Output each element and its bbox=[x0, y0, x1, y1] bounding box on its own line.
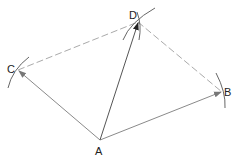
label-a: A bbox=[95, 145, 103, 157]
parallelogram-diagram: A B C D bbox=[0, 0, 238, 161]
dashed-line-c-d bbox=[18, 22, 138, 70]
vector-a-d bbox=[100, 23, 138, 140]
arc-d-1 bbox=[123, 8, 155, 40]
vector-a-c bbox=[19, 71, 100, 140]
label-c: C bbox=[7, 63, 15, 75]
label-d: D bbox=[129, 9, 137, 21]
dashed-line-d-b bbox=[138, 22, 222, 92]
label-b: B bbox=[224, 86, 231, 98]
vector-a-b bbox=[100, 92, 221, 140]
